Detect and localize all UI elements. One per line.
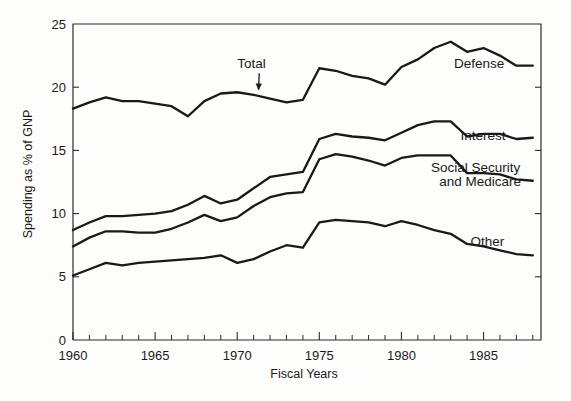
series-label-social-security: Social Security <box>431 160 521 175</box>
y-axis-title: Spending as % of GNP <box>21 110 35 239</box>
series-line-defense <box>73 42 533 117</box>
total-annotation-arrowhead <box>256 84 261 90</box>
x-axis-title: Fiscal Years <box>270 367 337 381</box>
y-axis-tick-label: 10 <box>52 206 66 221</box>
series-label-total: Total <box>237 56 266 71</box>
y-axis-tick-label: 15 <box>52 143 66 158</box>
series-line-other <box>73 220 533 276</box>
chart-canvas: 0510152025196019651970197519801985Fiscal… <box>0 0 571 401</box>
x-axis-tick-label: 1985 <box>469 348 498 363</box>
x-axis-tick-label: 1965 <box>141 348 170 363</box>
x-axis-tick-label: 1975 <box>305 348 334 363</box>
x-axis-tick-label: 1980 <box>387 348 416 363</box>
series-label-and-medicare: and Medicare <box>439 174 521 189</box>
x-axis-tick-label: 1970 <box>223 348 252 363</box>
y-axis-tick-label: 5 <box>59 269 66 284</box>
series-label-defense: Defense <box>454 56 504 71</box>
y-axis-tick-label: 20 <box>52 80 66 95</box>
y-axis-tick-label: 0 <box>59 333 66 348</box>
series-label-other: Other <box>470 234 504 249</box>
x-axis-tick-label: 1960 <box>59 348 88 363</box>
series-label-interest: Interest <box>461 128 506 143</box>
y-axis-tick-label: 25 <box>52 17 66 32</box>
chart-figure: 0510152025196019651970197519801985Fiscal… <box>0 0 571 401</box>
